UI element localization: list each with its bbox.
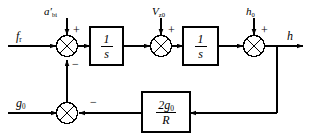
integrator-1-label: 1 s bbox=[95, 33, 118, 60]
input-label-f: fr bbox=[16, 30, 22, 42]
integrator-1-denominator: s bbox=[95, 47, 118, 60]
integrator-1-numerator: 1 bbox=[95, 33, 118, 46]
sum-3-sign-plus: + bbox=[261, 24, 268, 36]
feedback-gain-numerator: 2g0 bbox=[148, 99, 184, 112]
block-diagram-figure: fr g0 a′bi Vz0 h0 h + − + + − 1 s 1 s 2g… bbox=[0, 0, 311, 135]
sum-1-sign-plus: + bbox=[73, 24, 80, 36]
input-label-h0: h0 bbox=[246, 6, 255, 17]
input-label-g: g0 bbox=[16, 97, 26, 109]
integrator-2-label: 1 s bbox=[189, 33, 212, 60]
integrator-2-denominator: s bbox=[189, 47, 212, 60]
sum-2-sign-plus: + bbox=[168, 24, 175, 36]
feedback-gain-denominator: R bbox=[148, 113, 184, 126]
input-label-a-prime: a′bi bbox=[44, 6, 57, 17]
feedback-gain-label: 2g0 R bbox=[148, 99, 184, 126]
sum-1-sign-minus: − bbox=[72, 58, 79, 70]
integrator-2-numerator: 1 bbox=[189, 33, 212, 46]
sum-4-sign-minus: − bbox=[90, 96, 97, 108]
output-label-h: h bbox=[287, 30, 293, 42]
input-label-v: Vz0 bbox=[152, 6, 165, 17]
